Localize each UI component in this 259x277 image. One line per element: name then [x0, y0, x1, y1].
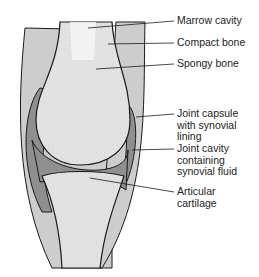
label-spongy-bone: Spongy bone: [177, 58, 239, 70]
label-joint-cavity: Joint cavity containing synovial fluid: [177, 143, 237, 178]
label-articular-cartilage: Articular cartilage: [177, 186, 217, 209]
label-compact-bone: Compact bone: [177, 37, 245, 49]
label-marrow-cavity: Marrow cavity: [177, 15, 242, 27]
label-joint-capsule: Joint capsule with synovial lining: [177, 108, 238, 143]
